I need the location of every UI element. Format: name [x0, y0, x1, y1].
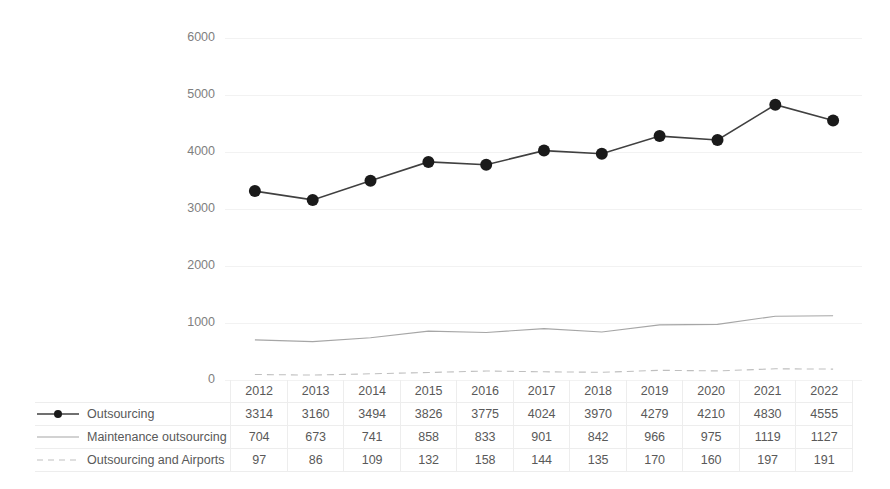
- table-header-cell: 2021: [739, 380, 796, 403]
- table-cell: 197: [739, 449, 796, 472]
- table-cell: 97: [231, 449, 288, 472]
- table-header-cell: 2018: [570, 380, 627, 403]
- data-point-marker: [422, 156, 434, 168]
- series-lines: [0, 0, 890, 380]
- table-cell: 1127: [796, 426, 853, 449]
- table-cell: 160: [683, 449, 740, 472]
- table-cell: 975: [683, 426, 740, 449]
- table-cell: 901: [513, 426, 570, 449]
- table-cell: 4210: [683, 403, 740, 426]
- table-header-row: 2012201320142015201620172018201920202021…: [35, 380, 853, 403]
- data-point-marker: [769, 99, 781, 111]
- table-cell: 842: [570, 426, 627, 449]
- data-table: 2012201320142015201620172018201920202021…: [35, 380, 853, 472]
- data-point-marker: [712, 134, 724, 146]
- table-row: Outsourcing33143160349438263775402439704…: [35, 403, 853, 426]
- table-cell: 1119: [739, 426, 796, 449]
- table-cell: 3775: [457, 403, 514, 426]
- table-cell: 4555: [796, 403, 853, 426]
- legend-swatch: [35, 431, 81, 443]
- table-cell: 4024: [513, 403, 570, 426]
- table-cell: 704: [231, 426, 288, 449]
- table-cell: 3314: [231, 403, 288, 426]
- table-cell: 3160: [287, 403, 344, 426]
- data-point-marker: [480, 159, 492, 171]
- table-header-cell: 2014: [344, 380, 401, 403]
- table-header-cell: 2020: [683, 380, 740, 403]
- table-cell: 966: [626, 426, 683, 449]
- table-cell: 3970: [570, 403, 627, 426]
- table-cell: 158: [457, 449, 514, 472]
- table-cell: 673: [287, 426, 344, 449]
- data-point-marker: [827, 114, 839, 126]
- table-cell: 3494: [344, 403, 401, 426]
- series-line-2: [255, 316, 833, 342]
- table-header-cell: 2019: [626, 380, 683, 403]
- data-point-marker: [538, 145, 550, 157]
- table-cell: 4279: [626, 403, 683, 426]
- table-header-cell: 2012: [231, 380, 288, 403]
- chart-container: 6000500040003000200010000 20122013201420…: [0, 0, 890, 489]
- legend-swatch: [35, 454, 81, 466]
- table-header-cell: 2022: [796, 380, 853, 403]
- legend-key-cell: [35, 380, 231, 403]
- table-header-cell: 2016: [457, 380, 514, 403]
- table-header-cell: 2013: [287, 380, 344, 403]
- legend-label: Outsourcing: [87, 407, 154, 421]
- data-point-marker: [307, 194, 319, 206]
- table-cell: 4830: [739, 403, 796, 426]
- table-cell: 86: [287, 449, 344, 472]
- table-cell: 858: [400, 426, 457, 449]
- data-point-marker: [654, 130, 666, 142]
- plot-area: 6000500040003000200010000: [0, 0, 890, 380]
- table-cell: 3826: [400, 403, 457, 426]
- legend-key-cell: Maintenance outsourcing: [35, 426, 231, 449]
- legend-swatch: [35, 408, 81, 420]
- table-row: Outsourcing and Airports9786109132158144…: [35, 449, 853, 472]
- table-cell: 109: [344, 449, 401, 472]
- table-header-cell: 2017: [513, 380, 570, 403]
- table-cell: 741: [344, 426, 401, 449]
- data-point-marker: [365, 175, 377, 187]
- legend-label: Maintenance outsourcing: [87, 430, 227, 444]
- table-cell: 833: [457, 426, 514, 449]
- data-point-marker: [249, 185, 261, 197]
- series-line-3: [255, 369, 833, 375]
- table-cell: 135: [570, 449, 627, 472]
- table-cell: 191: [796, 449, 853, 472]
- table-cell: 132: [400, 449, 457, 472]
- legend-label: Outsourcing and Airports: [87, 453, 225, 467]
- legend-key-cell: Outsourcing: [35, 403, 231, 426]
- table-cell: 144: [513, 449, 570, 472]
- legend-key-cell: Outsourcing and Airports: [35, 449, 231, 472]
- data-point-marker: [596, 148, 608, 160]
- table-header-cell: 2015: [400, 380, 457, 403]
- table-row: Maintenance outsourcing70467374185883390…: [35, 426, 853, 449]
- table-cell: 170: [626, 449, 683, 472]
